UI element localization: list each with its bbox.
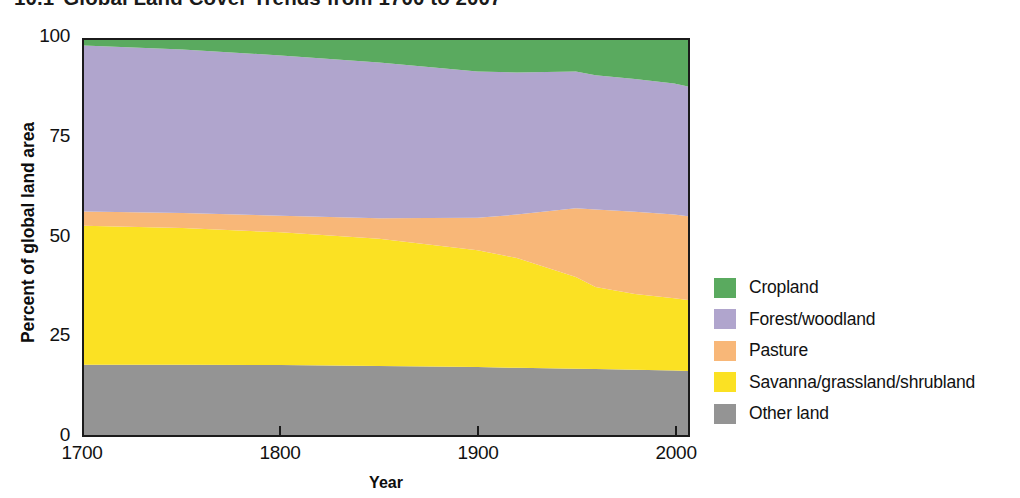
x-axis-title: Year <box>82 474 690 492</box>
legend-item-label: Pasture <box>749 340 808 361</box>
figure-title-text: Global Land Cover Trends from 1700 to 20… <box>63 0 501 9</box>
chart-legend: CroplandForest/woodlandPastureSavanna/gr… <box>714 272 1014 430</box>
y-tick-label-75: 75 <box>0 125 70 147</box>
x-tick-label-1700: 1700 <box>22 442 142 464</box>
legend-item-savanna-grassland-shrubland[interactable]: Savanna/grassland/shrubland <box>714 367 1014 399</box>
chart-area: 10.1Global Land Cover Trends from 1700 t… <box>0 0 1020 498</box>
x-tick-mark <box>279 426 281 435</box>
plot-area <box>82 38 690 437</box>
legend-swatch-icon <box>714 341 736 361</box>
legend-item-forest-woodland[interactable]: Forest/woodland <box>714 304 1014 336</box>
legend-item-label: Forest/woodland <box>749 309 875 330</box>
legend-item-label: Cropland <box>749 277 818 298</box>
legend-swatch-icon <box>714 278 736 298</box>
x-tick-mark <box>477 426 479 435</box>
legend-item-label: Other land <box>749 403 829 424</box>
x-tick-label-2000: 2000 <box>616 442 736 464</box>
y-tick-label-50: 50 <box>0 225 70 247</box>
x-tick-label-1900: 1900 <box>418 442 538 464</box>
legend-item-label: Savanna/grassland/shrubland <box>749 372 975 393</box>
area-band-other-land <box>84 365 688 435</box>
legend-swatch-icon <box>714 404 736 424</box>
x-tick-label-1800: 1800 <box>220 442 340 464</box>
y-tick-label-100: 100 <box>0 25 70 47</box>
legend-item-cropland[interactable]: Cropland <box>714 272 1014 304</box>
legend-item-pasture[interactable]: Pasture <box>714 335 1014 367</box>
figure-title: 10.1Global Land Cover Trends from 1700 t… <box>14 0 502 10</box>
legend-swatch-icon <box>714 309 736 329</box>
x-tick-mark <box>675 426 677 435</box>
legend-swatch-icon <box>714 372 736 392</box>
figure-number: 10.1 <box>14 0 54 9</box>
y-tick-label-25: 25 <box>0 324 70 346</box>
stacked-area-plot <box>84 40 688 435</box>
legend-item-other-land[interactable]: Other land <box>714 398 1014 430</box>
